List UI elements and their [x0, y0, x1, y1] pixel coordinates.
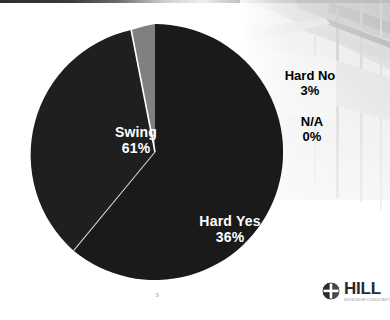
pie-chart: Swing 61% Hard Yes 36% — [27, 24, 283, 280]
top-accent-strip — [0, 0, 390, 3]
pie-label-hard-no-value: 3% — [266, 84, 354, 99]
pie-label-swing: Swing 61% — [90, 125, 182, 156]
hill-circle-cross-icon — [321, 281, 341, 301]
hill-subtitle: KNOWLEDGE CONSULTANTS — [344, 299, 390, 302]
pie-label-na: N/A 0% — [272, 115, 352, 145]
pie-label-hard-no: Hard No 3% — [266, 69, 354, 99]
slide-canvas: Swing 61% Hard Yes 36% Hard No 3% N/A 0%… — [0, 0, 390, 320]
hill-wordmark: HILL — [344, 280, 390, 297]
pie-label-hard-yes-name: Hard Yes — [199, 213, 260, 229]
pie-label-na-value: 0% — [272, 130, 352, 145]
pie-label-na-name: N/A — [301, 114, 323, 129]
hill-logo-text: HILL KNOWLEDGE CONSULTANTS — [344, 280, 390, 302]
pie-label-hard-yes-value: 36% — [183, 230, 277, 246]
pie-label-hard-no-name: Hard No — [285, 68, 336, 83]
pie-label-hard-yes: Hard Yes 36% — [183, 214, 277, 245]
hill-logo: HILL KNOWLEDGE CONSULTANTS — [321, 276, 387, 306]
page-number: 3 — [147, 291, 167, 299]
pie-label-swing-name: Swing — [115, 124, 157, 140]
pie-label-swing-value: 61% — [90, 141, 182, 157]
